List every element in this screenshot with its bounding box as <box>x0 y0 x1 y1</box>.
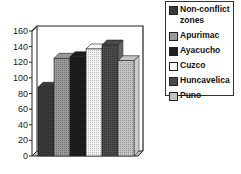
legend-swatch <box>169 6 178 15</box>
legend-label: Apurimac <box>180 30 219 41</box>
y-tick-label: 160 <box>13 26 28 36</box>
bar-puno <box>118 56 139 156</box>
y-tick-label: 80 <box>18 89 28 99</box>
legend-label: Huncavelica <box>180 75 230 86</box>
legend-item: Apurimac <box>168 30 231 45</box>
legend-swatch <box>169 92 178 101</box>
legend-item: Huncavelica <box>168 75 231 90</box>
y-tick-label: 60 <box>18 104 28 114</box>
legend-label: Ayacucho <box>180 45 220 56</box>
y-tick-label: 120 <box>13 57 28 67</box>
legend-swatch <box>169 47 178 56</box>
legend-label: Puno <box>180 90 201 101</box>
y-tick-label: 20 <box>18 135 28 145</box>
legend-label: Cuzco <box>180 60 206 71</box>
legend-item: Non-conflictzones <box>168 4 231 30</box>
y-tick-label: 0 <box>23 151 28 161</box>
bars <box>38 40 139 156</box>
legend-item: Puno <box>168 90 231 105</box>
legend-label: Non-conflictzones <box>180 4 230 26</box>
legend: Non-conflictzonesApurimacAyacuchoCuzcoHu… <box>165 1 234 96</box>
legend-item: Ayacucho <box>168 45 231 60</box>
legend-swatch <box>169 77 178 86</box>
legend-item: Cuzco <box>168 60 231 75</box>
legend-swatch <box>169 32 178 41</box>
y-tick-label: 100 <box>13 73 28 83</box>
y-tick-label: 40 <box>18 120 28 130</box>
y-tick-label: 140 <box>13 42 28 52</box>
legend-swatch <box>169 62 178 71</box>
